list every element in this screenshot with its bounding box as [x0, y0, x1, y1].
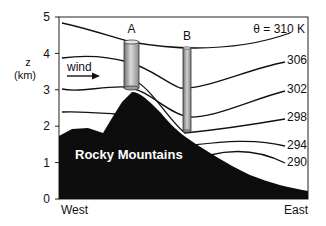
y-axis-title-units: (km)	[14, 69, 36, 81]
y-tick-2: 2	[43, 119, 50, 133]
y-tick-3: 3	[43, 83, 50, 97]
column-a-label: A	[127, 22, 135, 36]
y-tick-4: 4	[43, 47, 50, 61]
terrain-label: Rocky Mountains	[75, 147, 183, 162]
air-column-b	[183, 47, 191, 132]
y-tick-5: 5	[43, 10, 50, 24]
y-tick-0: 0	[43, 192, 50, 206]
x-label-west: West	[61, 203, 89, 217]
isentrope-label-290: 290	[287, 155, 307, 169]
y-axis	[55, 17, 59, 199]
isentrope-label-302: 302	[287, 82, 307, 96]
diagram-canvas: 0 1 2 3 4 5 z (km) West East A B wind θ …	[0, 0, 326, 226]
isentrope-cross-section-diagram: 0 1 2 3 4 5 z (km) West East A B wind θ …	[0, 0, 326, 226]
y-axis-title-z: z	[25, 56, 31, 68]
x-label-east: East	[284, 203, 309, 217]
y-tick-1: 1	[43, 156, 50, 170]
air-column-a	[124, 40, 139, 90]
isentrope-label-298: 298	[287, 110, 307, 124]
isentrope-label-306: 306	[287, 53, 307, 67]
isentrope-label-294: 294	[287, 138, 307, 152]
column-b-label: B	[183, 29, 191, 43]
isentrope-label-310: θ = 310 K	[253, 22, 305, 36]
wind-label: wind	[66, 60, 92, 74]
